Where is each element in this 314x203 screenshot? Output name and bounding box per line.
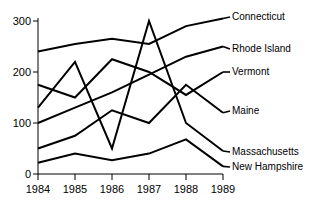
series-label-new-hampshire: New Hampshire bbox=[232, 161, 304, 172]
series-line-new-hampshire bbox=[38, 139, 223, 166]
series-leader-connecticut bbox=[223, 17, 230, 18]
series-label-maine: Maine bbox=[232, 105, 260, 116]
y-tick-label-100: 100 bbox=[13, 117, 31, 129]
y-tick-label-300: 300 bbox=[13, 15, 31, 27]
y-tick-label-0: 0 bbox=[25, 168, 31, 180]
x-tick-label-1986: 1986 bbox=[100, 183, 124, 195]
series-leader-maine bbox=[223, 111, 230, 113]
leader-lines-group bbox=[223, 17, 230, 167]
series-label-vermont: Vermont bbox=[232, 66, 269, 77]
x-tick-label-1985: 1985 bbox=[63, 183, 87, 195]
line-chart: 300 200 100 0 1984 1985 1986 1987 1988 1… bbox=[0, 0, 314, 203]
series-label-rhode-island: Rhode Island bbox=[232, 43, 291, 54]
series-leader-massachusetts bbox=[223, 151, 230, 152]
series-line-connecticut bbox=[38, 18, 223, 51]
chart-plot-area: 300 200 100 0 1984 1985 1986 1987 1988 1… bbox=[0, 0, 314, 203]
series-label-connecticut: Connecticut bbox=[232, 11, 285, 22]
y-tick-label-200: 200 bbox=[13, 66, 31, 78]
x-tick-label-1988: 1988 bbox=[174, 183, 198, 195]
series-leader-new-hampshire bbox=[223, 166, 230, 167]
series-group bbox=[38, 18, 223, 166]
series-label-massachusetts: Massachusetts bbox=[232, 146, 299, 157]
x-tick-label-1987: 1987 bbox=[137, 183, 161, 195]
x-tick-label-1984: 1984 bbox=[26, 183, 50, 195]
series-leader-rhode-island bbox=[223, 47, 230, 50]
x-tick-label-1989: 1989 bbox=[211, 183, 235, 195]
